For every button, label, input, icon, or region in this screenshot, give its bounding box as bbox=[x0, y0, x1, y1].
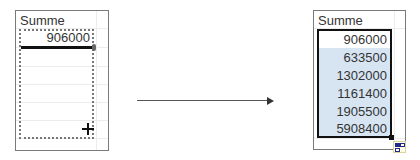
fill-handle[interactable] bbox=[389, 135, 394, 140]
filled-range-selection[interactable]: 906000 633500 1302000 1161400 1905500 59… bbox=[317, 29, 392, 138]
cell-value[interactable]: 1302000 bbox=[336, 67, 387, 84]
before-spreadsheet-panel: Summe 906000 bbox=[15, 10, 109, 151]
after-spreadsheet-panel: Summe 906000 633500 1302000 1161400 1905… bbox=[313, 10, 406, 150]
active-cell-value[interactable]: 906000 bbox=[47, 30, 90, 45]
autofill-options-button[interactable] bbox=[393, 141, 406, 153]
active-cell-border bbox=[21, 46, 93, 49]
transition-arrow-icon bbox=[137, 97, 277, 105]
cell-value[interactable]: 1161400 bbox=[337, 85, 387, 102]
cell-value[interactable]: 633500 bbox=[344, 49, 387, 66]
cell-value[interactable]: 1905500 bbox=[336, 103, 387, 120]
crosshair-cursor-icon bbox=[82, 123, 94, 135]
cell-value[interactable]: 5908400 bbox=[336, 120, 387, 137]
cell-value[interactable]: 906000 bbox=[344, 31, 387, 48]
column-header-summe: Summe bbox=[20, 13, 65, 28]
fill-handle[interactable] bbox=[92, 44, 96, 51]
column-header-summe: Summe bbox=[318, 13, 363, 28]
